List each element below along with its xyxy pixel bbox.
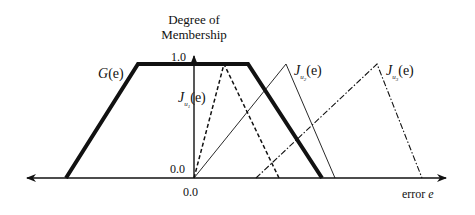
label-ju3-arg: (e) [398,63,414,78]
label-ju2-arg: (e) [306,63,322,78]
x-tick-origin: 0.0 [183,186,198,198]
y-axis-title-line1: Degree of [152,13,236,26]
y-axis-title: Degree of Membership [152,13,236,41]
label-ju2: Ju2(e) [294,64,322,82]
y-tick-origin: 0.0 [170,163,185,175]
y-axis-title-line2: Membership [152,28,236,41]
x-axis-label-var: e [428,187,433,201]
label-g: G(e) [98,67,124,81]
label-ju3: Ju3(e) [386,64,414,82]
label-ju1: Ju1(e) [178,91,206,109]
label-ju1-arg: (e) [190,90,206,105]
label-g-arg: (e) [108,66,124,81]
membership-ju1-curve [194,64,279,178]
membership-diagram [0,0,475,215]
y-tick-top: 1.0 [171,51,186,63]
x-axis-label: error e [402,188,434,200]
x-axis-label-word: error [402,187,425,201]
label-g-symbol: G [98,66,108,81]
